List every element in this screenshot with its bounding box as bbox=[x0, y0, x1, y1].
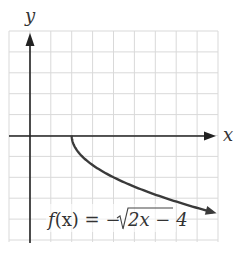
formula-radicand: 2x − 4 bbox=[127, 209, 188, 230]
function-graph: y x f(x) = − 2x − 4 bbox=[0, 0, 239, 259]
y-axis-label: y bbox=[24, 5, 36, 26]
x-axis-label: x bbox=[223, 124, 233, 145]
y-axis-arrow-icon bbox=[26, 33, 35, 46]
x-axis-arrow-icon bbox=[204, 132, 216, 141]
formula-label: f(x) = − bbox=[46, 209, 120, 230]
curve-arrow-icon bbox=[205, 206, 217, 215]
